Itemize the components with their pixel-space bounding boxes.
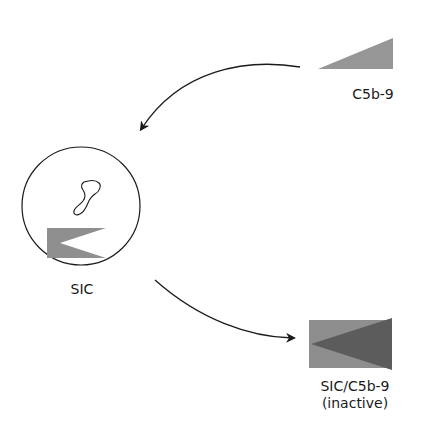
c5b9-label: C5b-9 [335, 86, 411, 103]
diagram-canvas [0, 0, 429, 439]
arrow-c5b9-to-sic [142, 64, 300, 128]
sic-circle [22, 147, 140, 265]
arrow-sic-to-complex [155, 280, 292, 338]
sic-shape-icon [47, 228, 106, 258]
complex-label-line2: (inactive) [300, 395, 410, 412]
sic-label: SIC [52, 281, 112, 298]
c5b9-wedge-icon [318, 38, 393, 69]
complex-label: SIC/C5b-9 (inactive) [300, 378, 410, 412]
sic-node [22, 147, 140, 265]
complex-shape-icon [309, 318, 392, 370]
complex-label-line1: SIC/C5b-9 [300, 378, 410, 395]
sic-protein-loop-icon [74, 181, 100, 215]
